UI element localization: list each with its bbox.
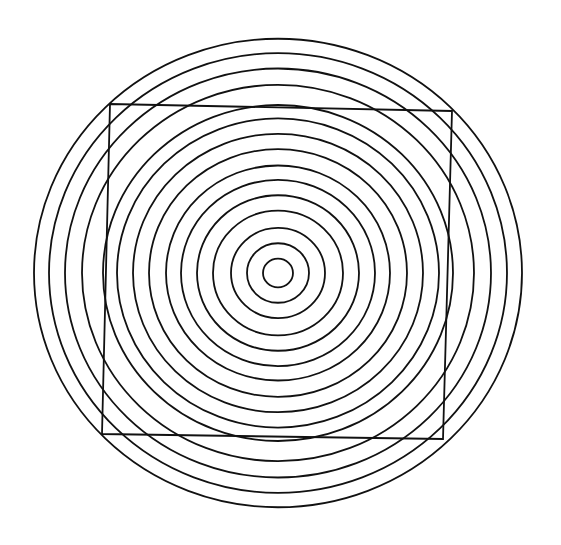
circle-ring <box>82 85 474 461</box>
circle-ring <box>247 243 309 303</box>
circle-ring <box>231 228 325 318</box>
circle-ring <box>213 211 343 336</box>
circle-ring <box>197 195 359 351</box>
circle-ring <box>133 134 423 412</box>
circle-ring <box>149 149 407 397</box>
circle-ring <box>181 180 375 366</box>
illusion-figure <box>0 0 561 545</box>
concentric-circles-square-diagram <box>0 0 561 545</box>
circle-ring <box>263 259 293 288</box>
circle-ring <box>166 165 390 380</box>
circle-ring <box>103 105 453 441</box>
circle-ring <box>65 69 491 478</box>
